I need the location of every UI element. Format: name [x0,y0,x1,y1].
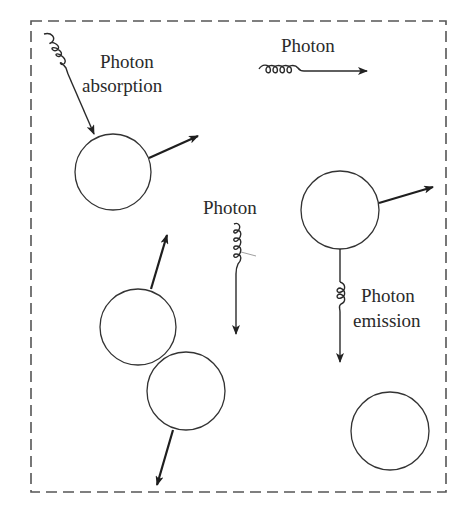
free-photon-middle-stray-mark [241,252,256,256]
emission-label-line1: Photon [361,285,415,306]
velocity-arrow [151,235,167,289]
velocity-arrow [157,430,173,485]
free-photon-middle-group: Photon [203,197,257,334]
incoming-photon-wave-icon [44,34,68,74]
particle-colliding-b [147,352,225,430]
free-photon-middle-wave-icon [234,223,241,274]
absorption-label-line1: Photon [100,51,154,72]
velocity-arrow [379,187,433,203]
free-photon-wave-icon [259,65,304,73]
velocity-arrow [149,136,198,158]
free-photon-top-label: Photon [281,35,335,56]
emission-label-line2: emission [353,310,421,331]
photon-particle-diagram: Photon absorption Photon Photon Photon e… [0,0,462,520]
particle-emitting [301,171,379,249]
free-photon-top-group: Photon [259,35,367,73]
photon-emission-group: Photon emission [337,249,421,362]
free-photon-middle-label: Photon [203,197,257,218]
photon-absorption-group: Photon absorption [44,34,163,134]
emitted-photon-wave-icon [337,282,345,312]
particle-absorbing [75,134,151,210]
absorption-label-line2: absorption [82,75,163,96]
particle-colliding-a [100,289,176,365]
particle-at-rest [351,392,429,470]
